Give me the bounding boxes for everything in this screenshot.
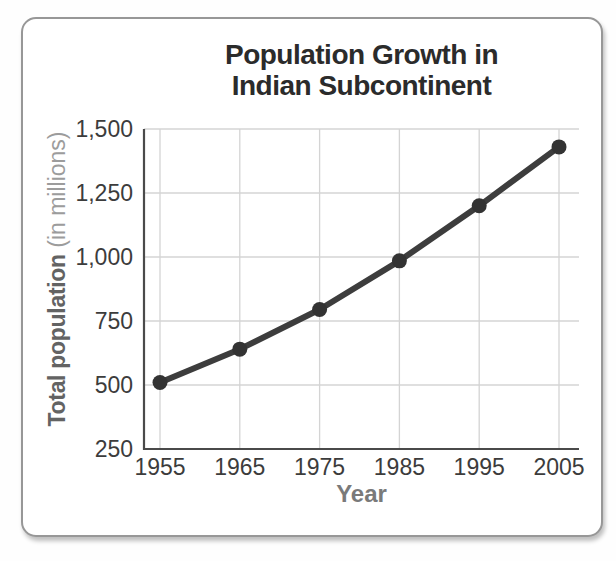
y-tick-label: 750 bbox=[95, 308, 133, 334]
x-tick-label: 1965 bbox=[214, 454, 265, 480]
data-point bbox=[472, 198, 487, 213]
data-point bbox=[312, 302, 327, 317]
data-point bbox=[153, 375, 168, 390]
y-tick-label: 500 bbox=[95, 372, 133, 398]
y-tick-label: 1,500 bbox=[75, 116, 133, 142]
x-tick-label: 2005 bbox=[533, 454, 584, 480]
series-line bbox=[160, 147, 559, 383]
chart-card: Population Growth in Indian Subcontinent… bbox=[21, 17, 603, 537]
chart-plot-area: 1,5001,2501,0007505002501955196519751985… bbox=[23, 19, 601, 535]
data-point bbox=[552, 139, 567, 154]
x-tick-label: 1985 bbox=[374, 454, 425, 480]
x-tick-label: 1955 bbox=[134, 454, 185, 480]
y-tick-label: 1,250 bbox=[75, 180, 133, 206]
data-point bbox=[392, 253, 407, 268]
x-tick-label: 1975 bbox=[294, 454, 345, 480]
x-axis-title: Year bbox=[144, 480, 579, 508]
x-tick-label: 1995 bbox=[454, 454, 505, 480]
data-point bbox=[232, 342, 247, 357]
y-tick-label: 250 bbox=[95, 436, 133, 462]
y-tick-label: 1,000 bbox=[75, 244, 133, 270]
